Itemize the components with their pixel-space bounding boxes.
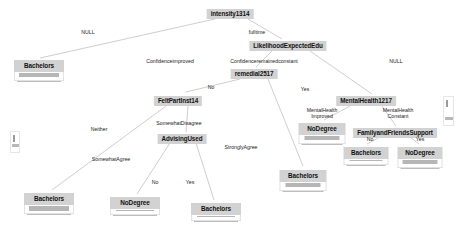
terminal-node-bar [304,136,340,140]
edge-label-edge-no-3: No [367,137,374,143]
terminal-node-leaf-bachelors-5[interactable]: Bachelors [280,170,327,192]
terminal-node-leaf-nodegree-2[interactable]: NoDegree [398,147,443,169]
terminal-node-bar [116,210,155,211]
terminal-node-axis [302,144,343,145]
edge-label-edge-conf-constant: Confidenceremainedconstant [230,59,297,65]
edge-label-edge-null-left: NULL [81,30,94,36]
clipped-node-bar [12,144,19,147]
tree-node-remedial2517[interactable]: remedial2517 [231,69,278,79]
edge-label-edge-conf-improved: Confidenceimproved [146,59,194,65]
terminal-node-bar [197,216,236,217]
terminal-node-axis [194,221,238,222]
tree-edge [186,106,188,132]
clipped-node-clip-right [443,96,454,126]
terminal-node-bar [285,183,321,187]
terminal-node-bar [19,73,59,77]
terminal-node-axis [27,214,71,215]
terminal-node-label: NoDegree [110,197,160,209]
terminal-node-label: Bachelors [280,170,327,182]
decision-tree-plot: intensity1314LikelihoodExpectedEduremedi… [0,0,464,241]
edge-label-edge-null-right: NULL [389,59,402,65]
edge-label-edge-somewhat-agree: SomewhatAgree [92,157,130,163]
edge-label-edge-yes-2: Yes [186,180,194,186]
tree-edge [137,143,170,194]
terminal-node-leaf-bachelors-4[interactable]: Bachelors [191,203,241,221]
edge-label-edge-strongly-agree: StronglyAgree [225,145,258,151]
tree-node-MentalHealth1217[interactable]: MentalHealth1217 [336,96,396,106]
tree-edge [40,19,215,58]
clipped-node-tick [13,135,15,142]
edge-label-edge-fulltime: fulltime [249,30,265,36]
terminal-node-axis [113,215,157,216]
terminal-node-bar [29,206,68,211]
tree-node-FeltPartInst14[interactable]: FeltPartInst14 [154,96,202,106]
terminal-node-axis [17,81,61,82]
terminal-node-barplot [398,159,443,168]
edge-label-edge-neither: Neither [91,127,108,133]
tree-edge [196,143,214,200]
edge-label-edge-mh-improved: MentalHealth Improved [307,108,338,120]
terminal-node-axis [401,168,440,169]
tree-node-AdvisingUsed[interactable]: AdvisingUsed [158,134,207,144]
terminal-node-leaf-nodegree-3[interactable]: NoDegree [110,197,160,215]
terminal-node-label: Bachelors [191,203,241,215]
terminal-node-barplot [14,72,64,81]
terminal-node-label: NoDegree [398,147,443,159]
terminal-node-barplot [24,205,74,215]
clipped-node-clip-left [10,131,20,153]
edge-label-edge-no-2: No [152,180,159,186]
tree-node-intensity1314[interactable]: intensity1314 [207,9,254,19]
terminal-node-bar [349,160,382,161]
terminal-node-label: Bachelors [24,193,74,205]
terminal-node-label: NoDegree [299,123,346,135]
terminal-node-leaf-nodegree-1[interactable]: NoDegree [299,123,346,145]
terminal-node-axis [283,191,324,192]
edge-label-edge-yes-1: Yes [301,87,309,93]
terminal-node-leaf-bachelors-3[interactable]: Bachelors [24,193,74,215]
clipped-node-tick [446,100,448,107]
terminal-node-label: Bachelors [14,60,64,72]
terminal-node-leaf-bachelors-2[interactable]: Bachelors [344,147,389,165]
edge-label-edge-yes-3: Yes [416,137,424,143]
edge-label-edge-somewhat-disag: SomewhatDisagree [156,121,201,127]
tree-node-LikelihoodExpectedEdu[interactable]: LikelihoodExpectedEdu [249,41,326,51]
terminal-node-barplot [299,135,346,144]
tree-edge [52,106,166,190]
terminal-node-label: Bachelors [344,147,389,159]
edge-label-edge-no-1: No [208,85,215,91]
edge-label-edge-mh-constant: MentalHealth Constant [383,108,414,120]
clipped-node-bar [445,117,453,120]
terminal-node-axis [347,165,386,166]
tree-edge [310,51,372,94]
terminal-node-leaf-bachelors-1[interactable]: Bachelors [14,60,64,82]
terminal-node-bar [403,160,437,164]
terminal-node-barplot [280,182,327,191]
